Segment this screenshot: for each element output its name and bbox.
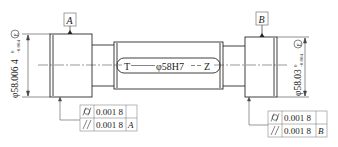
shaft-drawing: T φ58H7 Z φ58.006 4 0 -0.004 E φ58.03 0 … [0,0,338,147]
parallelism-icon [271,126,279,135]
left-fcf-row2-datum: A [127,120,134,130]
slot-label-right: Z [204,61,210,72]
svg-text:E: E [13,33,19,37]
left-fcf-row1-tolerance: 0.001 8 [96,107,124,117]
svg-text:-0.004: -0.004 [299,54,304,67]
svg-text:A: A [66,15,74,26]
svg-text:0: 0 [293,64,298,67]
svg-text:-0.004: -0.004 [16,40,21,53]
cylindricity-icon [271,114,279,122]
parallelism-icon [83,120,91,129]
right-cylinder [245,37,277,97]
right-fcf-row2-datum: B [318,126,324,136]
left-dimension-text: φ58.006 4 0 -0.004 E [10,30,21,98]
slot-label-left: T [124,61,130,72]
datum-b: B [256,12,268,37]
svg-text:E: E [296,43,302,47]
svg-text:φ58.03: φ58.03 [293,69,303,96]
svg-text:B: B [259,14,265,25]
left-fcf-row2-tolerance: 0.001 8 [96,120,124,130]
left-dimension [22,34,50,97]
slot-label-middle: φ58H7 [156,61,184,72]
datum-a: A [64,13,76,34]
right-neck [223,46,245,86]
left-neck [92,45,114,86]
left-fcf-leader [59,97,81,120]
right-fcf-row1-tolerance: 0.001 8 [284,113,312,123]
svg-text:φ58.006 4: φ58.006 4 [10,59,20,98]
cylindricity-icon [83,108,91,116]
right-dimension-text: φ58.03 0 -0.004 E [293,40,304,96]
right-fcf-row2-tolerance: 0.001 8 [284,126,312,136]
left-cylinder [50,34,92,97]
right-fcf-leader [248,97,269,125]
svg-text:0: 0 [10,50,15,53]
